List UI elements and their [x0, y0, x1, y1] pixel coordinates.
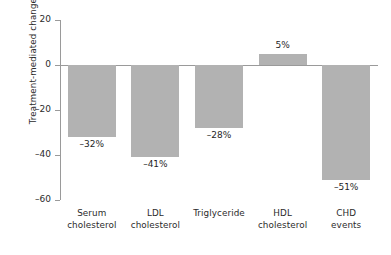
bar [322, 65, 370, 180]
bar-value-label: –28% [189, 131, 249, 140]
bar-value-label: –51% [316, 183, 376, 192]
bar [259, 54, 307, 65]
bar-value-label: –32% [62, 140, 122, 149]
y-tick-label: –40 [10, 150, 51, 159]
plot-area: –32%–41%–28%5%–51% [60, 20, 378, 200]
y-tick-label: –20 [10, 105, 51, 114]
bar [195, 65, 243, 128]
bar [68, 65, 116, 137]
x-category-label-line: cholesterol [117, 220, 193, 232]
bar [131, 65, 179, 157]
y-tick-label: –60 [10, 195, 51, 204]
x-category-label: CHDevents [308, 208, 384, 232]
bar-chart-figure: Treatment-mediated change (%) 200–20–40–… [0, 0, 391, 255]
x-category-label-line: events [308, 220, 384, 232]
bar-value-label: –41% [125, 160, 185, 169]
y-tick-label: 20 [10, 15, 51, 24]
y-tick-label: 0 [10, 60, 51, 69]
x-category-label-line: CHD [308, 208, 384, 220]
y-tick-mark [55, 200, 60, 201]
bar-value-label: 5% [253, 41, 313, 50]
